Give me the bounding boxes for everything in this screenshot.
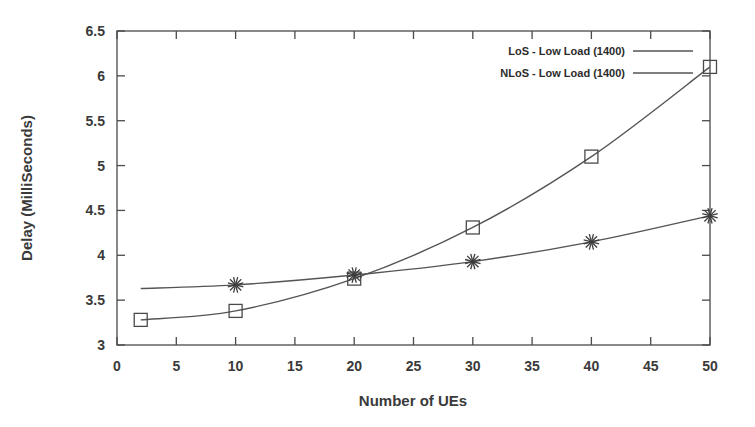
chart-figure: 33.544.555.566.5 05101520253035404550 Lo… (0, 0, 755, 427)
x-tick-label: 35 (524, 358, 540, 374)
x-tick-label: 0 (113, 358, 121, 374)
x-tick-label: 50 (702, 358, 718, 374)
x-tick-label: 30 (465, 358, 481, 374)
x-tick-label: 20 (346, 358, 362, 374)
y-tick-label: 6.5 (86, 23, 106, 39)
y-tick-label: 4 (97, 247, 105, 263)
x-tick-label: 45 (643, 358, 659, 374)
y-tick-label: 3 (97, 337, 105, 353)
y-axis-tick-labels: 33.544.555.566.5 (86, 23, 106, 353)
x-tick-label: 40 (584, 358, 600, 374)
x-tick-label: 15 (287, 358, 303, 374)
legend-label-2: NLoS - Low Load (1400) (500, 67, 625, 79)
legend-label-1: LoS - Low Load (1400) (508, 45, 625, 57)
y-axis-title: Delay (MilliSeconds) (18, 115, 35, 261)
data-series-2 (141, 208, 718, 293)
data-series-1 (134, 60, 716, 326)
chart-legend: LoS - Low Load (1400)NLoS - Low Load (14… (500, 45, 693, 79)
y-tick-label: 6 (97, 68, 105, 84)
y-tick-label: 5.5 (86, 113, 106, 129)
x-axis-tick-labels: 05101520253035404550 (113, 358, 718, 374)
y-tick-label: 3.5 (86, 292, 106, 308)
x-tick-label: 10 (228, 358, 244, 374)
series-line (141, 67, 710, 320)
y-tick-label: 4.5 (86, 202, 106, 218)
series-line (141, 216, 710, 289)
x-tick-label: 25 (406, 358, 422, 374)
delay-vs-ues-line-chart: 33.544.555.566.5 05101520253035404550 Lo… (0, 0, 755, 427)
x-tick-label: 5 (172, 358, 180, 374)
x-axis-title: Number of UEs (359, 392, 467, 409)
y-tick-label: 5 (97, 158, 105, 174)
data-series-layer (134, 60, 718, 326)
